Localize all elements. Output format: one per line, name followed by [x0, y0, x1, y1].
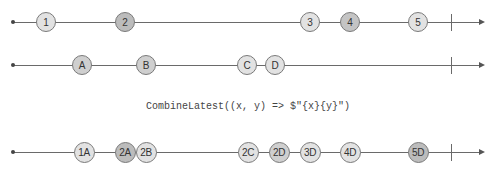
marble-5d: 5D — [408, 142, 429, 163]
marble-1: 1 — [36, 12, 56, 32]
marble-d: D — [265, 55, 285, 75]
arrow-icon — [479, 149, 485, 155]
marble-c: C — [237, 55, 257, 75]
marble-2d: 2D — [269, 142, 290, 163]
marble-2b: 2B — [136, 142, 157, 163]
completion-tick — [451, 14, 452, 31]
marble-b: B — [136, 55, 156, 75]
start-dot — [11, 63, 15, 67]
arrow-icon — [479, 62, 485, 68]
timeline-source-x: 12345 — [0, 8, 496, 38]
completion-tick — [451, 144, 452, 161]
timeline-source-y: ABCD — [0, 51, 496, 81]
marble-3: 3 — [300, 12, 320, 32]
marble-a: A — [72, 55, 92, 75]
start-dot — [11, 20, 15, 24]
marble-2a: 2A — [115, 142, 136, 163]
marble-5: 5 — [408, 12, 428, 32]
marble-2c: 2C — [238, 142, 259, 163]
timeline-result: 1A2A2B2C2D3D4D5D — [0, 138, 496, 168]
marble-3d: 3D — [300, 142, 321, 163]
marble-4: 4 — [340, 12, 360, 32]
operator-label: CombineLatest((x, y) => $"{x}{y}") — [0, 101, 496, 112]
completion-tick — [451, 57, 452, 74]
arrow-icon — [479, 19, 485, 25]
marble-1a: 1A — [74, 142, 95, 163]
marble-4d: 4D — [340, 142, 361, 163]
marble-2: 2 — [115, 12, 135, 32]
start-dot — [11, 150, 15, 154]
